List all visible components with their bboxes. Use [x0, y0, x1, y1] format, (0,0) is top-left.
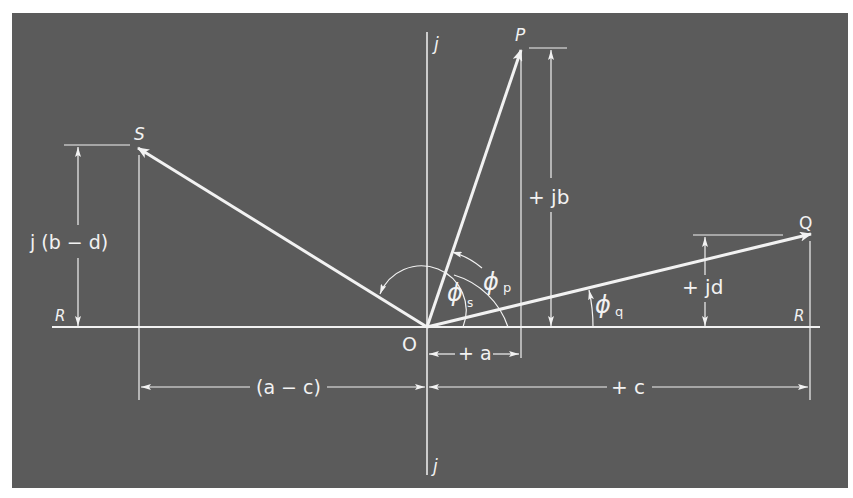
label-plus-jb: + jb — [528, 185, 569, 209]
svg-text:s: s — [467, 296, 473, 310]
label-vector-S: S — [134, 124, 145, 144]
label-a-minus-c: (a − c) — [256, 376, 321, 398]
label-plus-jd: + jd — [682, 275, 723, 299]
label-plus-a: + a — [458, 342, 492, 364]
label-real-axis-right: R — [794, 307, 804, 325]
label-origin: O — [402, 333, 417, 355]
svg-text:q: q — [615, 304, 623, 319]
label-imag-axis-top: j — [432, 34, 439, 54]
svg-text:ϕ: ϕ — [595, 291, 611, 319]
label-vector-P: P — [515, 25, 526, 45]
label-plus-c: + c — [611, 375, 645, 399]
label-imag-axis-bottom: j — [431, 456, 438, 476]
svg-text:ϕ: ϕ — [483, 268, 499, 296]
svg-text:p: p — [503, 280, 511, 295]
svg-text:ϕ: ϕ — [447, 279, 463, 307]
label-vector-Q: Q — [799, 213, 812, 233]
label-j-b-minus-d: j (b − d) — [29, 231, 108, 253]
label-real-axis-left: R — [55, 307, 65, 325]
phasor-diagram: P S Q O R R j j ϕ s ϕ p ϕ q + jb j (b − … — [0, 0, 853, 498]
diagram-panel — [12, 13, 848, 488]
